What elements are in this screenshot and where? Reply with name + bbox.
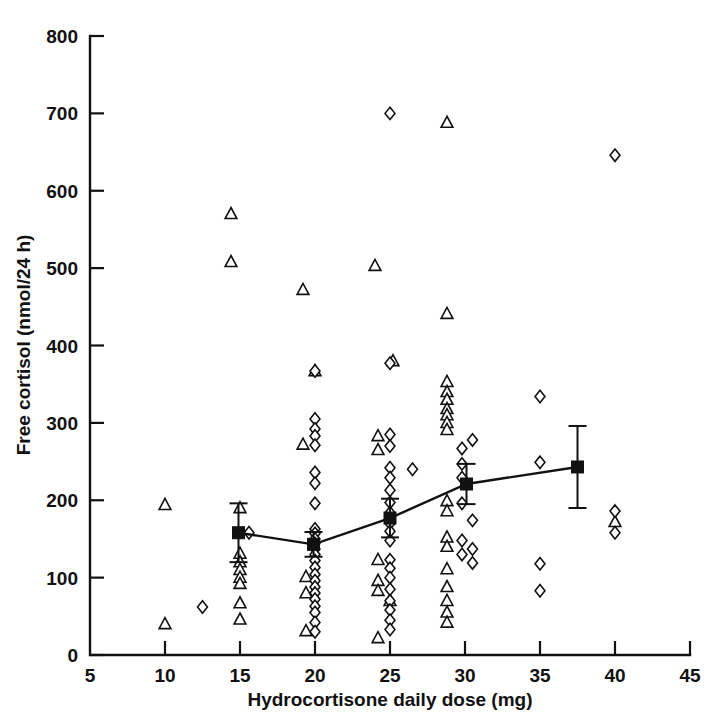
- data-point-diamond: [310, 477, 320, 489]
- data-point-triangle: [441, 563, 453, 574]
- data-point-diamond: [610, 527, 620, 539]
- x-tick-label: 40: [604, 665, 625, 686]
- data-point-triangle: [369, 259, 381, 270]
- y-tick-labels: 0100200300400500600700800: [46, 26, 78, 666]
- data-point-triangle: [372, 553, 384, 564]
- data-point-triangle: [297, 438, 309, 449]
- data-point-diamond: [385, 472, 395, 484]
- tick-marks-layer: [90, 113, 615, 655]
- y-tick-label: 700: [46, 103, 78, 124]
- data-point-diamond: [385, 623, 395, 635]
- scatter-plot-svg: 0100200300400500600700800 10152025303540…: [0, 0, 712, 718]
- data-point-triangle: [297, 283, 309, 294]
- chart-figure: 0100200300400500600700800 10152025303540…: [0, 0, 712, 718]
- data-point-diamond: [468, 514, 478, 526]
- data-point-diamond: [385, 107, 395, 119]
- data-points-layer: [159, 107, 621, 642]
- x-tick-label: 45: [679, 665, 701, 686]
- data-point-triangle: [441, 581, 453, 592]
- data-point-diamond: [535, 557, 545, 569]
- y-tick-label: 200: [46, 490, 78, 511]
- data-point-triangle: [225, 256, 237, 267]
- data-point-triangle: [441, 116, 453, 127]
- x-tick-label: 5: [85, 665, 96, 686]
- y-axis-title: Free cortisol (nmol/24 h): [13, 235, 34, 456]
- x-tick-label: 30: [454, 665, 475, 686]
- y-tick-label: 0: [67, 645, 78, 666]
- data-point-triangle: [234, 597, 246, 608]
- data-point-diamond: [385, 484, 395, 496]
- mean-marker-square: [461, 478, 473, 490]
- data-point-diamond: [535, 585, 545, 597]
- data-point-triangle: [372, 444, 384, 455]
- data-point-triangle: [159, 618, 171, 629]
- mean-marker-square: [572, 461, 584, 473]
- data-point-triangle: [234, 613, 246, 624]
- data-point-diamond: [457, 548, 467, 560]
- data-point-diamond: [198, 601, 208, 613]
- y-tick-label: 600: [46, 181, 78, 202]
- y-tick-label: 500: [46, 258, 78, 279]
- mean-marker-square: [308, 538, 320, 550]
- data-point-diamond: [385, 440, 395, 452]
- data-point-diamond: [457, 534, 467, 546]
- x-tick-label: 20: [304, 665, 325, 686]
- data-point-triangle: [441, 594, 453, 605]
- data-point-diamond: [468, 557, 478, 569]
- y-tick-label: 300: [46, 413, 78, 434]
- data-point-diamond: [468, 434, 478, 446]
- data-point-triangle: [372, 430, 384, 441]
- data-point-triangle: [300, 625, 312, 636]
- data-point-diamond: [535, 456, 545, 468]
- y-tick-label: 100: [46, 568, 78, 589]
- mean-series-layer: [230, 426, 587, 562]
- data-point-diamond: [457, 442, 467, 454]
- data-point-triangle: [372, 632, 384, 643]
- y-tick-label: 400: [46, 336, 78, 357]
- data-point-triangle: [159, 498, 171, 509]
- data-point-triangle: [225, 208, 237, 219]
- mean-connector-line: [239, 467, 578, 544]
- data-point-diamond: [408, 463, 418, 475]
- data-point-diamond: [310, 439, 320, 451]
- data-point-diamond: [610, 505, 620, 517]
- data-point-diamond: [610, 149, 620, 161]
- x-tick-label: 15: [229, 665, 251, 686]
- data-point-diamond: [468, 543, 478, 555]
- x-tick-labels: 10152025303540455: [85, 665, 701, 686]
- x-tick-label: 10: [154, 665, 175, 686]
- data-point-diamond: [535, 390, 545, 402]
- mean-marker-square: [384, 512, 396, 524]
- x-tick-label: 25: [379, 665, 401, 686]
- data-point-triangle: [441, 307, 453, 318]
- x-axis-title: Hydrocortisone daily dose (mg): [247, 689, 532, 710]
- x-tick-label: 35: [529, 665, 551, 686]
- data-point-diamond: [310, 497, 320, 509]
- mean-marker-square: [233, 527, 245, 539]
- y-tick-label: 800: [46, 26, 78, 47]
